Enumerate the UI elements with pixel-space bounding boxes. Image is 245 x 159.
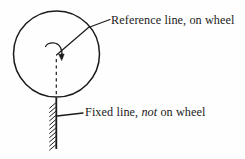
reference-leader-line [89,20,111,28]
fixed-label-text-after: on wheel [157,105,205,119]
reference-label-text: Reference line, on wheel [111,13,235,27]
fixed-label-text-emphasis: not [141,105,157,119]
fixed-leader-line [57,113,83,116]
fixed-line-hatching [50,103,56,150]
wheel-circle [14,11,100,97]
reference-line-label: Reference line, on wheel [111,13,235,27]
figure-container: Reference line, on wheel Fixed line, not… [0,0,245,159]
fixed-line-label: Fixed line, not on wheel [85,105,206,119]
rotation-arrow-head [59,54,64,61]
fixed-label-text-before: Fixed line, [85,105,141,119]
